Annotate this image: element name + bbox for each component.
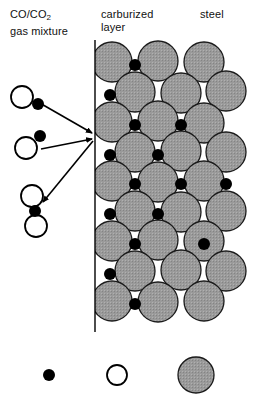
carbon-atom [29,205,41,217]
carbon-atom [175,178,187,190]
iron-atom [138,282,178,322]
carbon-atom [198,238,210,250]
carbon-atom [152,208,164,220]
gas-molecules [11,86,47,237]
diffusion-arrows [38,102,93,202]
carbon-dioxide-lower [21,185,47,237]
carbon-atom [129,59,141,71]
iron-atom [184,281,224,321]
iron-atom [92,281,132,321]
carbon-atom [129,238,141,250]
carbon-atom [220,178,232,190]
carbon-monoxide-middle [15,130,46,159]
carbon-atom [34,130,46,142]
carbon-atom [104,89,116,101]
oxygen-atom [11,86,33,108]
arrow-inward-upper [38,102,92,133]
carbon-atom [175,119,187,131]
oxygen-atom [21,185,43,207]
carbon-atom [104,268,116,280]
diagram-canvas [0,0,254,402]
carburization-diagram: CO/CO2gas mixture carburizedlayer steel … [0,0,254,402]
carbon-atom [104,208,116,220]
carbon-monoxide-upper [11,86,44,110]
legend: carbon; oxygen; iron [0,362,254,392]
carbon-atom [129,119,141,131]
arrow-inward-middle [41,139,92,149]
oxygen-atom [15,137,37,159]
carbon-atom [129,298,141,310]
carbon-atom [129,178,141,190]
carbon-atom [152,149,164,161]
carbon-atom [104,149,116,161]
arrow-outward-lower [43,141,93,202]
oxygen-atom [25,215,47,237]
